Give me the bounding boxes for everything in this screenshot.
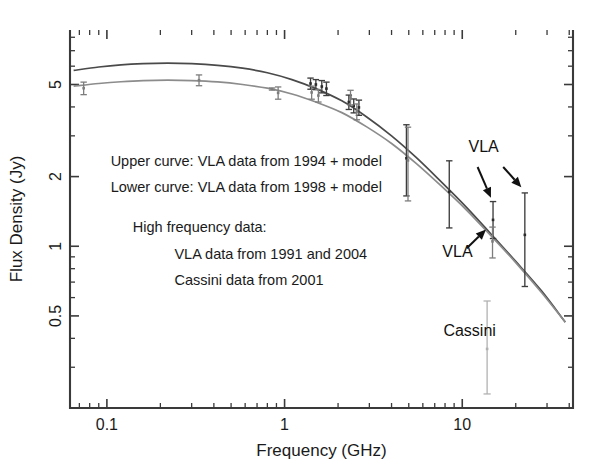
y-tick-label: 1 <box>47 242 64 251</box>
x-tick-label: 1 <box>280 416 289 433</box>
data-point <box>275 87 281 99</box>
figure-container: 0.1110 0.5125 Frequency (GHz) Flux Densi… <box>0 0 595 464</box>
y-tick-label: 0.5 <box>47 305 64 327</box>
y-axis-title: Flux Density (Jy) <box>7 156 26 283</box>
note-upper-curve: Upper curve: VLA data from 1994 + model <box>111 153 382 169</box>
label-vla-top: VLA <box>469 138 500 155</box>
label-cassini: Cassini <box>443 322 495 339</box>
data-series <box>484 301 491 394</box>
note-high-freq: High frequency data: <box>133 219 267 235</box>
data-point <box>489 227 495 258</box>
note-cassini-year: Cassini data from 2001 <box>174 272 323 288</box>
x-axis-title: Frequency (GHz) <box>256 441 386 460</box>
x-tick-label: 0.1 <box>96 416 118 433</box>
y-tick-label: 2 <box>47 172 64 181</box>
arrow-vla-top-right <box>503 167 521 187</box>
x-axis-tick-labels: 0.1110 <box>96 416 471 433</box>
arrow-vla-top-left <box>478 167 491 198</box>
data-point <box>522 193 528 287</box>
data-point <box>446 161 452 228</box>
note-vla-years: VLA data from 1991 and 2004 <box>174 246 367 262</box>
y-tick-label: 5 <box>47 80 64 89</box>
flux-density-vs-frequency-chart: 0.1110 0.5125 Frequency (GHz) Flux Densi… <box>0 0 595 464</box>
label-vla-bottom: VLA <box>442 243 473 260</box>
note-lower-curve: Lower curve: VLA data from 1998 + model <box>111 179 382 195</box>
y-axis-tick-labels: 0.5125 <box>47 80 64 327</box>
x-tick-label: 10 <box>453 416 471 433</box>
annotation-text-layer: Upper curve: VLA data from 1994 + modelL… <box>111 138 499 339</box>
annotation-arrows-layer <box>467 167 522 248</box>
data-point <box>484 301 491 394</box>
